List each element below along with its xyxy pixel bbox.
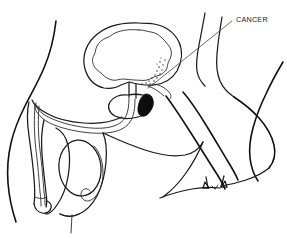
cancer-label: CANCER	[236, 15, 268, 24]
anatomy-diagram-svg: CANCER	[0, 0, 287, 239]
figure-background	[0, 0, 287, 239]
anatomy-figure: CANCER	[0, 0, 287, 239]
